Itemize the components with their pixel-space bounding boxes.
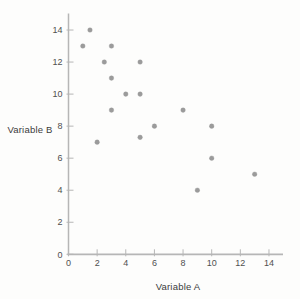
x-axis-label: Variable A	[156, 281, 201, 292]
x-tick-label: 14	[264, 258, 274, 268]
data-point	[181, 108, 186, 113]
x-tick-label: 12	[235, 258, 245, 268]
y-tick-label: 2	[57, 217, 62, 227]
data-point	[81, 44, 86, 49]
data-point	[138, 92, 143, 97]
data-point	[152, 124, 157, 129]
data-point	[123, 92, 128, 97]
data-point	[252, 172, 257, 177]
scatter-plot-figure: 0246810121402468101214 Variable A Variab…	[0, 0, 300, 299]
y-axis-label: Variable B	[7, 124, 52, 135]
data-point	[209, 156, 214, 161]
data-point	[95, 140, 100, 145]
chart-layer: 0246810121402468101214	[52, 14, 283, 269]
x-tick-label: 4	[123, 258, 128, 268]
y-tick-label: 8	[57, 121, 62, 131]
x-tick-label: 2	[95, 258, 100, 268]
data-point	[109, 76, 114, 81]
data-point	[109, 108, 114, 113]
x-tick-label: 8	[181, 258, 186, 268]
x-tick-label: 0	[66, 258, 71, 268]
data-point	[109, 44, 114, 49]
x-tick-label: 10	[207, 258, 217, 268]
y-tick-label: 0	[57, 250, 62, 260]
y-tick-label: 6	[57, 153, 62, 163]
y-tick-label: 4	[57, 185, 62, 195]
data-point	[138, 60, 143, 65]
scatter-plot-svg: 0246810121402468101214 Variable A Variab…	[0, 0, 300, 299]
y-tick-label: 12	[52, 57, 62, 67]
data-point	[88, 28, 93, 33]
data-point	[209, 124, 214, 129]
y-tick-label: 14	[52, 25, 62, 35]
x-tick-label: 6	[152, 258, 157, 268]
data-point	[138, 135, 143, 140]
data-point	[195, 188, 200, 193]
data-point	[102, 60, 107, 65]
y-tick-label: 10	[52, 89, 62, 99]
